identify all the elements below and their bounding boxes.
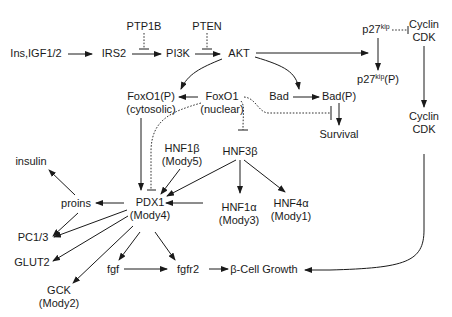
edge-proins-insulin [49, 170, 75, 195]
node-cyclin-cdk-bottom: Cyclin CDK [409, 110, 439, 136]
pathway-edges [0, 0, 452, 317]
edge-hnf3b-hnf4a [244, 160, 285, 192]
edge-pdx1-fgfr2 [155, 232, 175, 260]
node-survival: Survival [319, 128, 358, 141]
node-cyclin-cdk-bottom-line2: CDK [409, 123, 439, 136]
node-cyclin-cdk-top-line2: CDK [409, 31, 439, 44]
node-p27kip-text: p27 [362, 23, 380, 35]
node-fgf: fgf [107, 263, 119, 276]
node-hnf1a-line2: (Mody3) [219, 214, 259, 227]
node-pdx1: PDX1 (Mody4) [130, 196, 170, 222]
node-glut2: GLUT2 [14, 256, 49, 269]
edge-akt-foxo1p [181, 59, 222, 89]
node-bad: Bad [269, 90, 289, 103]
node-gck-line1: GCK [39, 284, 79, 297]
node-p27kip: p27kip [362, 23, 389, 36]
edge-pdx1-gck [73, 226, 133, 283]
node-foxo1p: FoxO1(P) (cytosolic) [126, 90, 176, 116]
pathway-diagram: Ins,IGF1/2 IRS2 PTP1B PI3K PTEN AKT p27k… [0, 0, 452, 317]
node-akt: AKT [228, 47, 249, 60]
node-pdx1-line2: (Mody4) [130, 209, 170, 222]
node-pten: PTEN [192, 20, 221, 33]
node-gck: GCK (Mody2) [39, 284, 79, 310]
node-irs2: IRS2 [102, 47, 126, 60]
node-p27kip-sup: kip [381, 23, 390, 30]
node-p27kip-p-sup: kip [375, 73, 384, 80]
node-hnf3b: HNF3β [222, 145, 257, 158]
node-foxo1-line1: FoxO1 [200, 90, 243, 103]
node-pdx1-line1: PDX1 [130, 196, 170, 209]
edge-cyclin-bcell [305, 154, 424, 270]
node-ins-igf: Ins,IGF1/2 [10, 47, 61, 60]
edge-pdx1-glut2 [53, 216, 128, 261]
node-cyclin-cdk-top-line1: Cyclin [409, 18, 439, 31]
node-insulin: insulin [15, 155, 46, 168]
node-p27kip-p: p27kip(P) [357, 73, 399, 86]
node-foxo1p-line2: (cytosolic) [126, 103, 176, 116]
node-ptp1b: PTP1B [127, 20, 162, 33]
node-hnf1a: HNF1α (Mody3) [219, 201, 259, 227]
node-cyclin-cdk-bottom-line1: Cyclin [409, 110, 439, 123]
node-foxo1-line2: (nuclear) [200, 103, 243, 116]
node-foxo1: FoxO1 (nuclear) [200, 90, 243, 116]
node-beta-cell-growth: β-Cell Growth [230, 263, 297, 276]
node-bad-p: Bad(P) [322, 90, 356, 103]
node-foxo1p-line1: FoxO1(P) [126, 90, 176, 103]
node-hnf1b-line2: (Mody5) [162, 155, 202, 168]
node-hnf1b: HNF1β (Mody5) [162, 142, 202, 168]
node-pi3k: PI3K [166, 47, 190, 60]
node-hnf4a-line1: HNF4α [271, 197, 311, 210]
node-hnf1b-line1: HNF1β [162, 142, 202, 155]
node-proins: proins [61, 197, 91, 210]
node-hnf4a-line2: (Mody1) [271, 210, 311, 223]
node-cyclin-cdk-top: Cyclin CDK [409, 18, 439, 44]
node-gck-line2: (Mody2) [39, 297, 79, 310]
edge-akt-bad [255, 57, 299, 89]
node-p27kip-p-text: p27 [357, 73, 375, 85]
node-p27kip-p-suffix: (P) [384, 73, 399, 85]
node-hnf1a-line1: HNF1α [219, 201, 259, 214]
node-pc13: PC1/3 [18, 231, 49, 244]
node-fgfr2: fgfr2 [177, 263, 199, 276]
node-hnf4a: HNF4α (Mody1) [271, 197, 311, 223]
